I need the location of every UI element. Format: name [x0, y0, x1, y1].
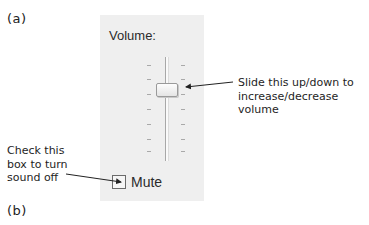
- callout-arrows: [0, 0, 369, 225]
- figure-label-b: (b): [7, 203, 27, 218]
- mute-arrow-icon: [66, 174, 121, 182]
- slider-arrow-icon: [186, 82, 233, 87]
